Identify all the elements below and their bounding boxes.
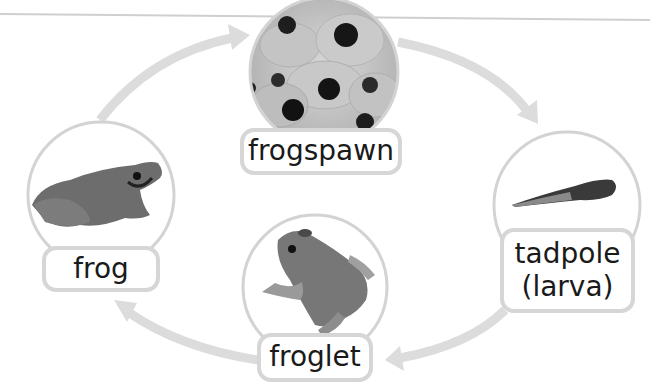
stage-label-frog: frog [42, 246, 160, 292]
arrow-tadpole-to-froglet [400, 310, 505, 358]
froglet-text: froglet [269, 341, 361, 373]
stage-label-froglet: froglet [257, 333, 373, 382]
frogspawn-text: frogspawn [248, 135, 394, 167]
arrowhead-1 [228, 24, 250, 50]
arrow-frog-to-frogspawn [100, 38, 232, 120]
diagram-graphics [0, 0, 650, 385]
tadpole-text: tadpole [515, 238, 621, 270]
arrow-froglet-to-frog [128, 312, 258, 360]
larva-text: (larva) [521, 271, 613, 303]
stage-label-frogspawn: frogspawn [240, 128, 402, 175]
arrow-frogspawn-to-tadpole [398, 42, 528, 112]
arrowhead-3 [385, 346, 404, 371]
frog-life-cycle-diagram: frogspawn tadpole (larva) froglet frog [0, 0, 650, 385]
stage-label-tadpole: tadpole (larva) [500, 228, 635, 313]
frog-text: frog [73, 253, 129, 285]
